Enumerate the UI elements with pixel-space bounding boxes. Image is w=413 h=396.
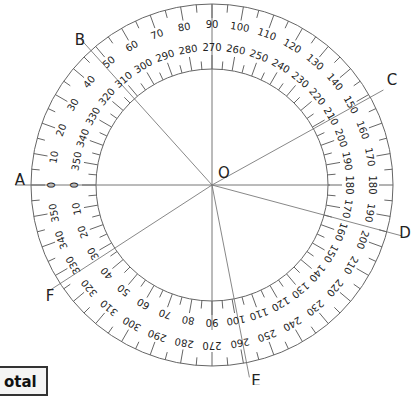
tick [168,294,173,307]
outer-scale-number: 120 [281,36,303,55]
outer-scale-number: 20 [54,122,69,138]
tick [88,174,96,175]
tick [269,342,274,355]
inner-scale-number: 190 [340,151,354,172]
tick [160,290,163,297]
tick [189,299,191,313]
inner-scale-number: 90 [206,317,219,328]
tick [311,327,316,334]
outer-scale-number: 310 [98,298,120,319]
tick [227,5,228,13]
tick [96,313,105,324]
outer-scale-number: 100 [230,20,251,34]
tick [165,352,167,360]
inner-scale-number: 70 [157,307,173,322]
tick [261,290,264,297]
tick [357,269,369,276]
tick [99,120,111,127]
tick [384,200,392,201]
tick [384,169,392,170]
tick [84,307,90,313]
tick [324,153,332,155]
tick [92,215,100,217]
tick [128,274,137,285]
outer-scale-number: 90 [206,19,219,30]
tick [100,234,107,237]
tick [376,154,390,156]
tick [324,215,332,217]
tick [241,7,243,21]
ray-label-c: C [387,71,397,89]
tick [301,260,312,269]
tick [222,61,223,69]
tick [196,5,197,13]
outer-scale-number: 280 [174,336,195,350]
tick [326,162,340,164]
tick [180,65,182,73]
tick [317,133,324,136]
tick [294,267,300,273]
tick [110,252,117,257]
inner-scale-number: 140 [307,263,328,285]
tick [328,174,336,175]
tick [84,162,98,164]
tick [147,285,154,297]
partial-box-text: otal [4,373,37,391]
tick [42,242,55,247]
tick [311,37,316,44]
tick [296,330,303,342]
outer-scale-number: 40 [81,73,98,90]
tick [112,101,123,110]
tick [160,73,163,80]
outer-scale-number: 250 [256,327,278,344]
tick [112,260,123,269]
tick [357,95,369,102]
outer-scale-number: 230 [304,298,326,319]
inner-scale-number: 40 [98,265,115,282]
tick [287,274,296,285]
tick [269,15,274,28]
tick [64,81,71,86]
inner-scale-number: 330 [83,105,102,127]
tick [124,267,130,273]
tick [241,349,243,363]
tick [307,252,314,257]
tick [34,154,48,156]
tick [122,28,129,40]
inner-scale-number: 10 [70,202,83,216]
tick [141,280,146,287]
tick [189,57,191,71]
tick [287,85,296,96]
tick [326,205,340,207]
tick [84,57,90,63]
tick [319,313,328,324]
inner-scale-number: 290 [154,47,176,64]
tick [100,133,107,136]
outer-scale-number: 300 [121,314,143,333]
tick [48,109,55,112]
tick [165,10,167,18]
outer-scale-number: 320 [79,277,100,299]
tick [84,205,98,207]
tick [147,72,154,84]
tick [321,141,334,146]
outer-scale-number: 210 [341,254,360,276]
tick [42,123,55,128]
tick [150,15,155,28]
tick [252,294,257,307]
tick [37,230,45,232]
inner-scale-number: 220 [307,86,328,108]
tick [128,85,137,96]
tick [108,37,113,44]
ray-label-e: E [251,372,260,386]
outer-scale-number: 140 [325,71,346,93]
tick [334,57,340,63]
tick [294,97,300,103]
outer-scale-number: 200 [354,229,371,251]
tick [136,342,139,349]
tick [181,349,183,363]
center-label-o: O [218,164,230,182]
tick [317,234,324,237]
tick [257,10,259,18]
tick [90,225,103,230]
